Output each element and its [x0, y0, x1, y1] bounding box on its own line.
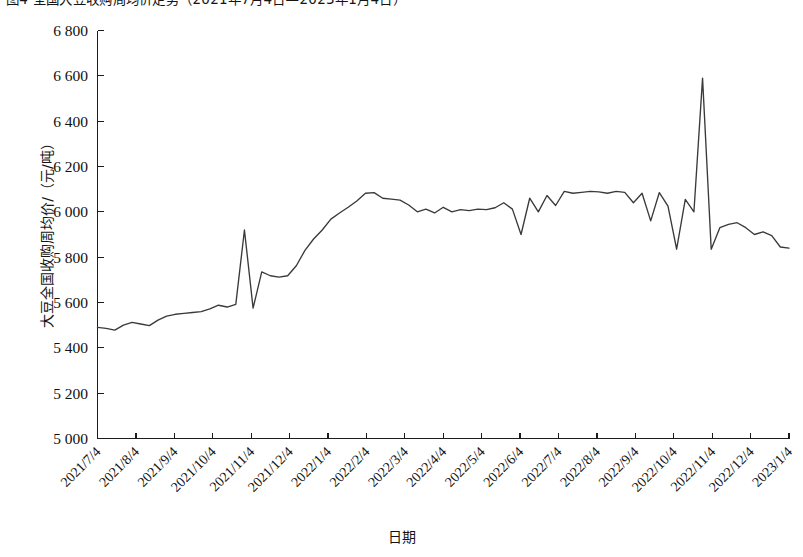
x-tick-label: 2021/8/4 — [96, 444, 142, 490]
x-tick-label: 2022/3/4 — [365, 444, 411, 490]
y-tick-label: 5 200 — [53, 385, 88, 402]
x-tick-mark-group — [136, 433, 789, 439]
axis-lines — [98, 31, 790, 439]
x-tick-label: 2022/6/4 — [480, 444, 526, 490]
y-tick-label: 6 000 — [53, 203, 88, 220]
x-tick-label: 2022/4/4 — [404, 444, 450, 490]
y-tick-label: 6 200 — [53, 158, 88, 175]
y-tick-label: 6 400 — [53, 113, 88, 130]
line-chart-plot: 5 0005 2005 4005 6005 8006 0006 2006 400… — [0, 0, 803, 557]
y-tick-label: 5 000 — [53, 430, 88, 447]
y-tick-label-group: 5 0005 2005 4005 6005 8006 0006 2006 400… — [53, 22, 88, 447]
price-series-line — [98, 78, 790, 330]
y-tick-label: 6 800 — [53, 22, 88, 39]
y-tick-label: 6 600 — [53, 67, 88, 84]
y-tick-label: 5 800 — [53, 249, 88, 266]
chart-figure: 图4 全国大豆收购周均价走势（2021年7月4日—2023年1月4日） 大豆全国… — [0, 0, 803, 557]
y-tick-label: 5 600 — [53, 294, 88, 311]
x-tick-label: 2022/2/4 — [327, 444, 373, 490]
x-tick-label: 2022/7/4 — [519, 444, 565, 490]
y-tick-mark-group — [98, 31, 104, 394]
x-tick-label: 2022/1/4 — [288, 444, 334, 490]
x-tick-label-group: 2021/7/42021/8/42021/9/42021/10/42021/11… — [58, 444, 795, 495]
x-tick-label: 2022/5/4 — [442, 444, 488, 490]
x-tick-label: 2022/8/4 — [557, 444, 603, 490]
y-tick-label: 5 400 — [53, 339, 88, 356]
x-tick-label: 2021/7/4 — [58, 444, 104, 490]
x-tick-label: 2023/1/4 — [749, 444, 795, 490]
